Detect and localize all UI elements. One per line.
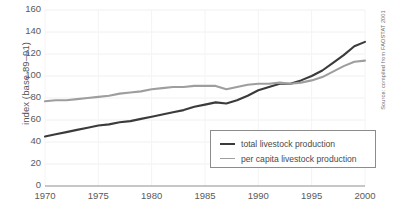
legend-swatch-total xyxy=(220,143,235,145)
legend-swatch-per-capita xyxy=(220,158,235,159)
x-tick-label: 2000 xyxy=(343,190,387,201)
y-tick-label: 20 xyxy=(1,157,41,168)
x-tick-label: 1980 xyxy=(130,190,174,201)
livestock-production-line-chart: index (base 89–91) Source: compiled from… xyxy=(0,0,410,216)
chart-legend: total livestock production per capita li… xyxy=(210,130,376,168)
y-tick-label: 40 xyxy=(1,135,41,146)
legend-item-per-capita: per capita livestock production xyxy=(220,151,375,166)
x-tick-label: 1990 xyxy=(236,190,280,201)
source-note: Source: compiled from FAOSTAT 2001 xyxy=(380,0,386,125)
y-tick-label: 100 xyxy=(1,69,41,80)
x-tick-label: 1975 xyxy=(76,190,120,201)
legend-label-per-capita: per capita livestock production xyxy=(241,154,357,164)
y-tick-label: 80 xyxy=(1,91,41,102)
x-tick-label: 1995 xyxy=(290,190,334,201)
legend-item-total: total livestock production xyxy=(220,136,375,151)
x-tick-label: 1970 xyxy=(23,190,67,201)
y-tick-label: 120 xyxy=(1,47,41,58)
legend-label-total: total livestock production xyxy=(241,139,335,149)
y-tick-label: 140 xyxy=(1,25,41,36)
x-tick-label: 1985 xyxy=(183,190,227,201)
y-tick-label: 160 xyxy=(1,3,41,14)
y-tick-label: 60 xyxy=(1,113,41,124)
y-tick-label: 0 xyxy=(1,179,41,190)
